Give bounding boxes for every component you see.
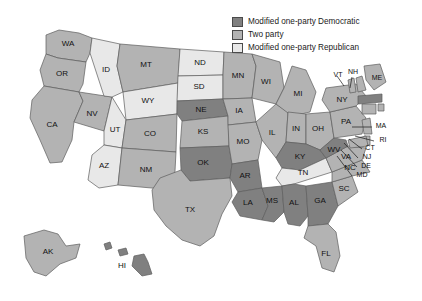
state-nd [178, 49, 224, 76]
legend-label-republican: Modified one-party Republican [248, 43, 359, 53]
state-tx [152, 170, 232, 246]
us-party-classification-map: Modified one-party Democratic Two party … [0, 0, 422, 301]
state-ak [24, 230, 80, 276]
state-co [122, 114, 177, 152]
state-mo [228, 122, 262, 164]
legend-item-republican: Modified one-party Republican [232, 42, 360, 53]
state-label-ma: MA [376, 122, 387, 129]
state-az [88, 145, 122, 188]
legend-label-two-party: Two party [248, 30, 284, 40]
state-ga [306, 182, 338, 226]
state-label-vt: VT [334, 71, 344, 78]
state-label-nh: NH [348, 68, 358, 75]
leader-line-vt [337, 76, 344, 86]
state-sd [177, 75, 223, 101]
state-nj [362, 118, 372, 134]
legend-label-democratic: Modified one-party Democratic [248, 17, 360, 27]
state-me [364, 64, 386, 90]
state-mn [223, 52, 256, 99]
state-ca [30, 86, 83, 163]
state-al [282, 184, 308, 226]
state-ar [230, 160, 262, 192]
state-wi [252, 54, 284, 104]
state-in [286, 112, 306, 144]
state-label-ri: RI [380, 136, 387, 143]
legend-item-democratic: Modified one-party Democratic [232, 16, 360, 27]
state-ks [180, 116, 229, 148]
state-fl [304, 224, 340, 272]
legend-swatch-two-party [232, 30, 243, 40]
state-la [232, 188, 268, 220]
state-ma [358, 94, 382, 104]
state-ia [223, 98, 256, 125]
legend-swatch-republican [232, 43, 243, 53]
state-ri [378, 104, 384, 111]
state-ok [180, 146, 232, 181]
state-hi [104, 242, 152, 276]
state-label-hi: HI [118, 261, 126, 270]
state-ct [362, 104, 376, 114]
state-nh [356, 76, 366, 92]
legend-swatch-democratic [232, 17, 243, 27]
states-layer [24, 30, 386, 276]
map-legend: Modified one-party Democratic Two party … [232, 16, 360, 53]
legend-item-two-party: Two party [232, 29, 360, 40]
